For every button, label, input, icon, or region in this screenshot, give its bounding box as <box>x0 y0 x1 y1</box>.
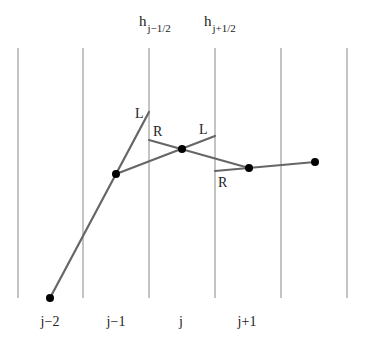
segment-j-minus-2-to-j-minus-1 <box>50 112 149 298</box>
cell-labels: j−2 j−1 j j+1 <box>40 314 257 329</box>
label-L: L <box>135 106 144 121</box>
cell-label-j-minus-1: j−1 <box>106 314 126 329</box>
point-j-plus-1 <box>245 164 253 172</box>
point-j-minus-2 <box>46 294 54 302</box>
interface-label-j-plus-half: hj+1/2 <box>204 13 236 34</box>
reconstruction-segments <box>50 112 315 298</box>
points <box>46 145 319 302</box>
point-j <box>178 145 186 153</box>
cell-label-j-plus-1: j+1 <box>237 314 257 329</box>
grid-lines <box>18 48 347 298</box>
reconstruction-diagram: L R L R hj−1/2 hj+1/2 j−2 j−1 j j+1 <box>0 0 367 343</box>
point-j-plus-2 <box>311 158 319 166</box>
label-L: L <box>199 122 208 137</box>
interface-label-j-minus-half: hj−1/2 <box>139 13 171 34</box>
interface-labels: hj−1/2 hj+1/2 <box>139 13 236 34</box>
cell-label-j: j <box>178 314 183 329</box>
label-R: R <box>153 124 163 139</box>
label-R: R <box>218 175 228 190</box>
cell-label-j-minus-2: j−2 <box>40 314 60 329</box>
segment-j-cell-slope <box>149 140 249 168</box>
point-j-minus-1 <box>112 170 120 178</box>
